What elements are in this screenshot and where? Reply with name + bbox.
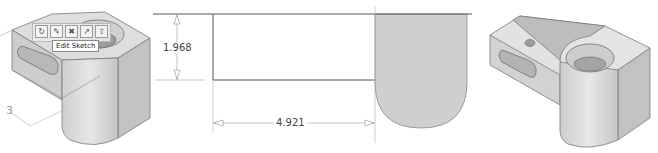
sketch-dim-icon[interactable]: ✖: [65, 25, 78, 38]
left-3d-view[interactable]: ↻ ✎ ✖ ↗ ⇧ Edit Sketch 3: [0, 0, 160, 153]
sketch-geometry[interactable]: [150, 0, 480, 153]
horizontal-dimension[interactable]: 4.921: [274, 117, 307, 129]
edit-sketch-icon[interactable]: ✎: [50, 25, 63, 38]
sketch-view[interactable]: 1.968 4.921: [150, 0, 480, 153]
vertical-dimension[interactable]: 1.968: [163, 42, 192, 54]
edit-sketch-tooltip: Edit Sketch: [52, 40, 99, 52]
right-3d-view[interactable]: [480, 0, 658, 153]
rotate-icon[interactable]: ↻: [35, 25, 48, 38]
right-part-model[interactable]: [480, 0, 658, 153]
dimension-label: 3: [6, 104, 13, 117]
shaded-profile: [375, 14, 467, 128]
extrude-icon[interactable]: ⇧: [95, 25, 108, 38]
feature-icon[interactable]: ↗: [80, 25, 93, 38]
